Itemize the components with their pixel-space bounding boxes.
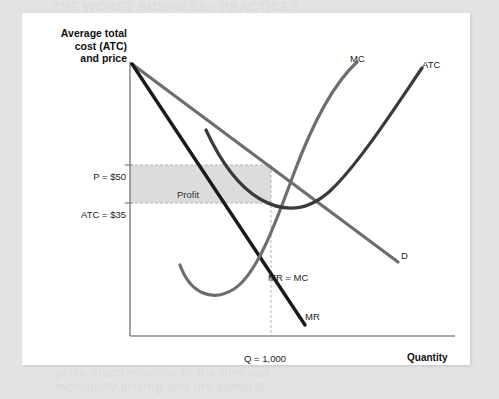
y-axis-title: Average total cost (ATC) and price (32, 27, 127, 65)
economics-chart-svg (22, 13, 470, 365)
mc-curve-label: MC (350, 53, 365, 64)
screenshot-root: THE WORST BUSINESS - PRACTICES A (0, 0, 499, 399)
mr-equals-mc-label: MR = MC (268, 272, 308, 283)
profit-region (130, 165, 271, 203)
price-axis-label: P = $50 (40, 171, 126, 182)
background-ghost-text-bottom-1: price discrimination in the firm can (0, 366, 499, 380)
mr-curve-label: MR (305, 311, 320, 322)
atc-axis-label: ATC = $35 (30, 209, 126, 220)
background-ghost-text-bottom-2: monopoly pricing and the demand (0, 380, 499, 394)
demand-curve-label: D (401, 250, 408, 261)
x-axis-title: Quantity (407, 352, 448, 363)
background-ghost-text-top: THE WORST BUSINESS - PRACTICES (0, 0, 499, 14)
profit-region-label: Profit (177, 189, 199, 200)
demand-curve (132, 64, 398, 262)
quantity-axis-label: Q = 1,000 (244, 353, 286, 364)
atc-curve-label: ATC (422, 59, 440, 70)
figure-panel: Average total cost (ATC) and price P = $… (22, 13, 470, 365)
